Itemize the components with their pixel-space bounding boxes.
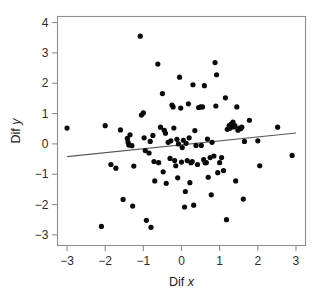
- x-tick-label: −3: [60, 254, 74, 268]
- data-point: [129, 143, 134, 148]
- data-point: [171, 104, 176, 109]
- data-point: [186, 101, 191, 106]
- data-point: [177, 75, 182, 80]
- data-point: [215, 170, 220, 175]
- y-tick-label: 1: [42, 107, 49, 121]
- data-point: [200, 104, 205, 109]
- x-tick-label: 2: [254, 254, 261, 268]
- data-point: [239, 125, 244, 130]
- data-point: [131, 163, 136, 168]
- data-point: [178, 106, 183, 111]
- data-point: [108, 162, 113, 167]
- data-point: [155, 62, 160, 67]
- data-point: [255, 138, 260, 143]
- data-point: [113, 166, 118, 171]
- data-point: [190, 82, 195, 87]
- data-point: [290, 153, 295, 158]
- data-point: [257, 163, 262, 168]
- data-point: [212, 60, 217, 65]
- y-tick-label: −2: [35, 198, 49, 212]
- data-point: [127, 132, 132, 137]
- y-tick-label: −1: [35, 167, 49, 181]
- data-point: [174, 137, 179, 142]
- data-point: [64, 126, 69, 131]
- data-point: [224, 217, 229, 222]
- data-point: [190, 159, 195, 164]
- y-tick-label: −3: [35, 228, 49, 242]
- data-point: [183, 141, 188, 146]
- data-point: [232, 123, 237, 128]
- data-point: [146, 150, 151, 155]
- y-axis-title: Dif y: [9, 118, 23, 144]
- data-point: [213, 103, 218, 108]
- x-tick-label: −2: [98, 254, 112, 268]
- data-point: [176, 141, 181, 146]
- data-point: [192, 128, 197, 133]
- data-point: [168, 138, 173, 143]
- data-point: [171, 126, 176, 131]
- data-point: [103, 123, 108, 128]
- data-point: [206, 175, 211, 180]
- y-tick-label: 0: [42, 137, 49, 151]
- data-point: [223, 95, 228, 100]
- y-tick-label: 4: [42, 16, 49, 30]
- data-point: [187, 180, 192, 185]
- data-point: [118, 127, 123, 132]
- figure-background: [0, 0, 325, 299]
- plot-canvas: −3−2−10123 −3−2−101234 Dif xDif y: [0, 0, 325, 299]
- y-tick-label: 2: [42, 76, 49, 90]
- data-point: [219, 155, 224, 160]
- data-point: [199, 143, 204, 148]
- data-point: [209, 192, 214, 197]
- y-tick-label: 3: [42, 46, 49, 60]
- data-point: [191, 203, 196, 208]
- data-point: [150, 133, 155, 138]
- data-point: [275, 125, 280, 130]
- data-point: [152, 178, 157, 183]
- data-point: [209, 140, 214, 145]
- data-point: [233, 178, 238, 183]
- data-point: [183, 189, 188, 194]
- scatter-plot-figure: −3−2−10123 −3−2−101234 Dif xDif y: [0, 0, 325, 299]
- data-point: [202, 83, 207, 88]
- x-tick-label: 0: [178, 254, 185, 268]
- data-point: [247, 118, 252, 123]
- data-point: [121, 197, 126, 202]
- data-point: [164, 181, 169, 186]
- x-tick-label: 1: [216, 254, 223, 268]
- data-point: [214, 72, 219, 77]
- data-point: [182, 204, 187, 209]
- data-point: [148, 225, 153, 230]
- data-point: [221, 168, 226, 173]
- data-point: [144, 218, 149, 223]
- data-point: [179, 159, 184, 164]
- x-tick-label: 3: [293, 254, 300, 268]
- data-point: [163, 131, 168, 136]
- data-point: [180, 145, 185, 150]
- data-point: [160, 91, 165, 96]
- data-point: [151, 159, 156, 164]
- data-point: [148, 139, 153, 144]
- data-point: [204, 160, 209, 165]
- x-tick-label: −1: [137, 254, 151, 268]
- data-point: [161, 169, 166, 174]
- data-point: [138, 34, 143, 39]
- data-point: [187, 135, 192, 140]
- data-point: [205, 136, 210, 141]
- data-point: [130, 203, 135, 208]
- data-point: [217, 160, 222, 165]
- data-point: [156, 160, 161, 165]
- data-point: [175, 175, 180, 180]
- data-point: [172, 158, 177, 163]
- data-point: [173, 163, 178, 168]
- data-point: [241, 196, 246, 201]
- data-point: [99, 224, 104, 229]
- data-point: [195, 162, 200, 167]
- data-point: [211, 153, 216, 158]
- x-axis-title: Dif x: [169, 275, 195, 289]
- data-point: [242, 139, 247, 144]
- data-point: [167, 156, 172, 161]
- data-point: [193, 143, 198, 148]
- data-point: [141, 110, 146, 115]
- data-point: [142, 135, 147, 140]
